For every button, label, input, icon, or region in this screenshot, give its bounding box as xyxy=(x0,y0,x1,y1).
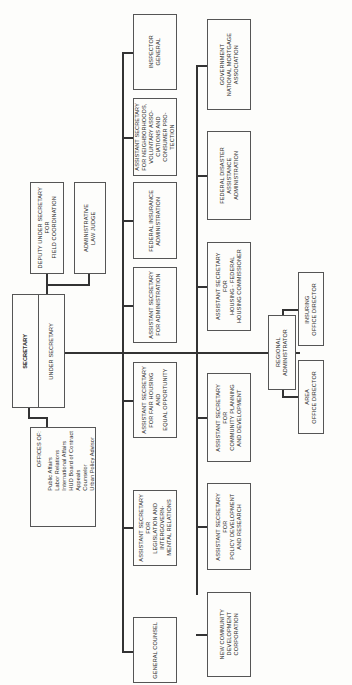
asst-sec-policy-box: ASSISTANT SECRETARY FOR POLICY DEVELOPME… xyxy=(207,483,251,570)
asst-sec-neighborhoods-label: ASSISTANT SECRETARY FOR NEIGHBORHOODS, V… xyxy=(134,103,176,171)
under-secretary-label: UNDER SECRETARY xyxy=(48,323,55,380)
under-secretary-box: UNDER SECRETARY xyxy=(38,294,65,408)
insuring-office-director-box: INSURING OFFICE DIRECTOR xyxy=(298,272,324,346)
asst-sec-administration-label: ASSISTANT SECRETARY FOR ADMINISTRATION xyxy=(148,271,162,339)
general-counsel-box: GENERAL COUNSEL xyxy=(133,617,177,683)
deputy-under-secretary-box: DEPUTY UNDER SECRETARY FOR FIELD COORDIN… xyxy=(30,182,64,274)
branch-community xyxy=(196,417,207,419)
regional-administrator-box: REGIONAL ADMINISTRATOR xyxy=(268,315,296,390)
offices-items: Public Affairs Labor Relations Internati… xyxy=(47,431,96,491)
federal-disaster-label: FEDERAL DISASTER ASSISTANCE ADMINISTRATI… xyxy=(219,147,240,204)
federal-insurance-box: FEDERAL INSURANCE ADMINISTRATION xyxy=(133,182,177,259)
asst-sec-community-planning-label: ASSISTANT SECRETARY FOR COMMUNITY PLANNI… xyxy=(215,384,243,452)
top-row-spine xyxy=(122,52,124,653)
secretary-box: SECRETARY xyxy=(12,294,39,408)
offices-box: OFFICES OF: Public Affairs Labor Relatio… xyxy=(30,427,96,527)
deputy-under-secretary-label: DEPUTY UNDER SECRETARY FOR FIELD COORDIN… xyxy=(37,187,58,268)
branch-gnma xyxy=(196,65,207,67)
offices-connector-2 xyxy=(28,417,47,419)
branch-fair-housing xyxy=(122,400,133,402)
branch-legislation xyxy=(122,527,133,529)
asst-sec-policy-label: ASSISTANT SECRETARY FOR POLICY DEVELOPME… xyxy=(215,493,243,561)
inspector-general-box: INSPECTOR GENERAL xyxy=(133,14,177,90)
area-office-director-box: AREA OFFICE DIRECTOR xyxy=(298,360,324,434)
federal-insurance-label: FEDERAL INSURANCE ADMINISTRATION xyxy=(148,190,162,252)
asst-sec-community-planning-box: ASSISTANT SECRETARY FOR COMMUNITY PLANNI… xyxy=(207,373,251,462)
secretary-label: SECRETARY xyxy=(22,334,29,369)
main-horizontal-connector xyxy=(65,352,300,354)
branch-new-community xyxy=(196,634,207,636)
new-community-label: NEW COMMUNITY DEVELOPMENT CORPORATION xyxy=(219,609,240,659)
administrative-law-judge-label: ADMINISTRATIVE LAW JUDGE xyxy=(83,204,97,252)
asst-sec-legislation-box: ASSISTANT SECRETARY FOR LEGISLATION AND … xyxy=(133,490,177,566)
deputy-alj-connector xyxy=(46,284,90,286)
asst-sec-fair-housing-label: ASSISTANT SECRETARY FOR FAIR HOUSING AND… xyxy=(141,366,169,434)
branch-policy xyxy=(196,526,207,528)
general-counsel-label: GENERAL COUNSEL xyxy=(152,622,159,679)
gnma-box: GOVERNMENT NATIONAL MORTGAGE ASSOCIATION xyxy=(207,19,251,110)
inspector-general-label: INSPECTOR GENERAL xyxy=(148,35,162,68)
branch-disaster xyxy=(196,175,207,177)
branch-administration xyxy=(122,305,133,307)
insuring-office-director-label: INSURING OFFICE DIRECTOR xyxy=(304,283,318,336)
new-community-box: NEW COMMUNITY DEVELOPMENT CORPORATION xyxy=(207,592,251,677)
bottom-row-spine-2 xyxy=(196,65,198,595)
branch-general-counsel xyxy=(122,651,133,653)
branch-housing xyxy=(196,286,207,288)
branch-inspector xyxy=(122,52,133,54)
area-office-director-label: AREA OFFICE DIRECTOR xyxy=(304,371,318,424)
regional-administrator-label: REGIONAL ADMINISTRATOR xyxy=(275,329,289,376)
branch-neighborhoods xyxy=(122,137,133,139)
alj-connector xyxy=(88,273,90,286)
asst-sec-fair-housing-box: ASSISTANT SECRETARY FOR FAIR HOUSING AND… xyxy=(133,362,177,438)
branch-insurance xyxy=(122,220,133,222)
asst-sec-administration-box: ASSISTANT SECRETARY FOR ADMINISTRATION xyxy=(133,267,177,343)
asst-sec-neighborhoods-box: ASSISTANT SECRETARY FOR NEIGHBORHOODS, V… xyxy=(133,98,177,176)
administrative-law-judge-box: ADMINISTRATIVE LAW JUDGE xyxy=(74,182,106,274)
asst-sec-legislation-label: ASSISTANT SECRETARY FOR LEGISLATION AND … xyxy=(138,494,173,562)
asst-sec-housing-label: ASSISTANT SECRETARY FOR HOUSING - FEDERA… xyxy=(215,249,243,323)
federal-disaster-box: FEDERAL DISASTER ASSISTANCE ADMINISTRATI… xyxy=(207,131,251,220)
offices-heading: OFFICES OF: xyxy=(36,431,43,467)
asst-sec-housing-box: ASSISTANT SECRETARY FOR HOUSING - FEDERA… xyxy=(207,242,251,331)
gnma-label: GOVERNMENT NATIONAL MORTGAGE ASSOCIATION xyxy=(219,33,240,96)
